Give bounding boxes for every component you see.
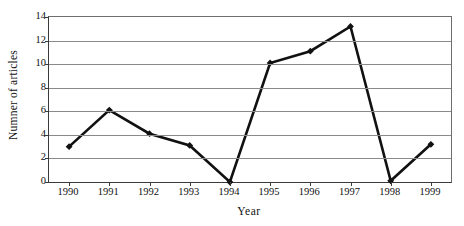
y-tick-mark [45, 111, 49, 112]
x-tick-label: 1992 [138, 187, 159, 198]
x-tick-label: 1996 [299, 187, 320, 198]
x-tick-label: 1998 [379, 187, 400, 198]
x-tick-label: 1994 [218, 187, 239, 198]
gridline [49, 41, 451, 42]
y-tick-label: 12 [24, 34, 46, 45]
x-tick-label: 1999 [419, 187, 440, 198]
y-tick-label: 4 [24, 129, 46, 140]
y-axis-title: Numner of articles [0, 0, 26, 190]
x-tick-label: 1990 [58, 187, 79, 198]
data-line-series [49, 17, 451, 182]
y-axis-title-text: Numner of articles [7, 50, 19, 140]
y-tick-mark [45, 182, 49, 183]
line-chart: Numner of articles 02468101214 199019911… [0, 0, 464, 226]
gridline [49, 111, 451, 112]
gridline [49, 135, 451, 136]
x-tick-label: 1997 [339, 187, 360, 198]
y-axis-tick-labels: 02468101214 [24, 0, 46, 226]
y-tick-mark [45, 17, 49, 18]
y-tick-mark [45, 158, 49, 159]
y-tick-label: 6 [24, 105, 46, 116]
plot-area [48, 16, 452, 183]
y-tick-label: 2 [24, 152, 46, 163]
x-tick-label: 1991 [98, 187, 119, 198]
gridline [49, 88, 451, 89]
x-tick-label: 1995 [259, 187, 280, 198]
y-tick-label: 8 [24, 81, 46, 92]
y-tick-label: 0 [24, 176, 46, 187]
gridline [49, 64, 451, 65]
y-tick-mark [45, 41, 49, 42]
x-axis-title: Year [48, 205, 450, 217]
series-markers [66, 23, 435, 185]
y-tick-label: 10 [24, 58, 46, 69]
data-point-marker [267, 60, 274, 67]
y-tick-mark [45, 64, 49, 65]
y-tick-mark [45, 88, 49, 89]
x-tick-label: 1993 [178, 187, 199, 198]
y-tick-mark [45, 135, 49, 136]
gridline [49, 158, 451, 159]
y-tick-label: 14 [24, 11, 46, 22]
x-axis-tick-labels: 1990199119921993199419951996199719981999 [48, 187, 450, 203]
